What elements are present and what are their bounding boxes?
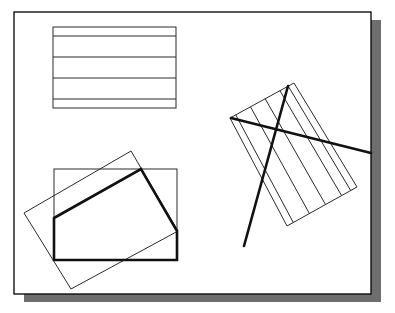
diagram-canvas <box>0 0 395 313</box>
diagram-frame <box>14 12 371 294</box>
